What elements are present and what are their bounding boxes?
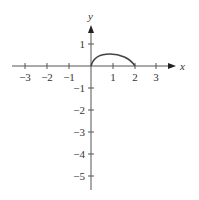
x-tick-label: −3 [19, 71, 31, 83]
x-tick-label: 1 [110, 71, 116, 83]
x-tick-label: 2 [132, 71, 138, 83]
y-tick-label: −3 [73, 126, 85, 138]
y-tick-label: 1 [80, 38, 86, 50]
x-tick-label: 3 [153, 71, 159, 83]
y-tick-label: −1 [73, 82, 85, 94]
chart: −3 −2 −1 1 2 3 1 −1 −2 −3 −4 −5 x y [0, 0, 199, 200]
x-axis-arrow-icon [168, 63, 176, 69]
y-axis-label: y [87, 10, 93, 22]
y-tick-label: −5 [73, 170, 85, 182]
y-tick-label: −2 [73, 104, 85, 116]
y-axis-arrow-icon [88, 25, 94, 33]
y-tick-label: −4 [73, 148, 85, 160]
x-axis-label: x [179, 60, 185, 72]
x-tick-label: −2 [41, 71, 53, 83]
